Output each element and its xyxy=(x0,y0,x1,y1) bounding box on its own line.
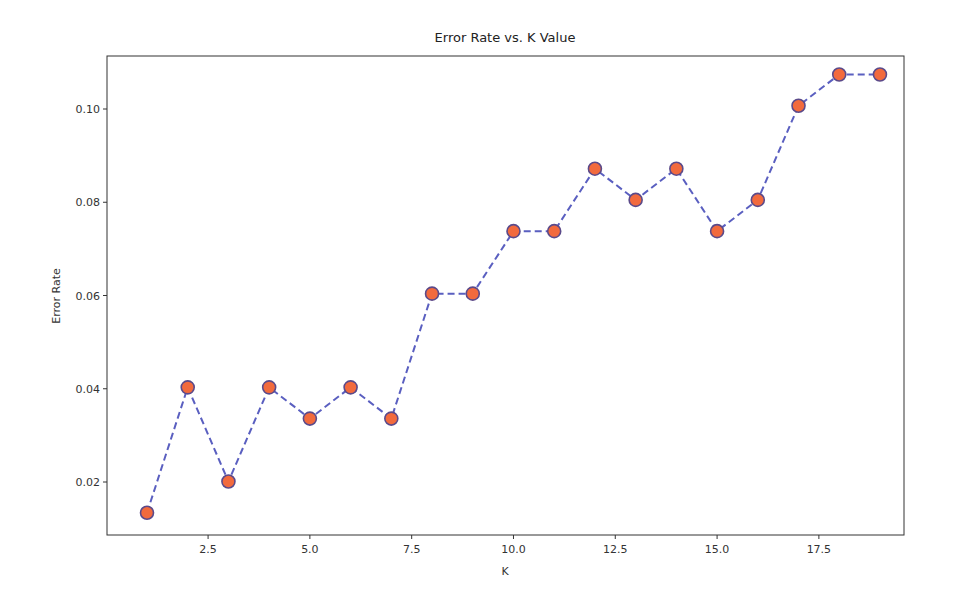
data-point-marker xyxy=(751,193,764,206)
x-axis-ticks: 2.55.07.510.012.515.017.5 xyxy=(199,535,831,556)
x-tick-label: 12.5 xyxy=(603,543,628,556)
data-point-marker xyxy=(344,381,357,394)
x-axis-label: K xyxy=(501,565,509,578)
x-tick-label: 7.5 xyxy=(403,543,421,556)
data-point-marker xyxy=(303,412,316,425)
data-point-marker xyxy=(466,287,479,300)
data-point-marker xyxy=(711,225,724,238)
data-point-marker xyxy=(507,225,520,238)
data-point-marker xyxy=(792,99,805,112)
data-point-marker xyxy=(426,287,439,300)
data-point-marker xyxy=(263,381,276,394)
y-tick-label: 0.06 xyxy=(76,290,101,303)
data-point-marker xyxy=(670,162,683,175)
x-tick-label: 10.0 xyxy=(501,543,526,556)
y-tick-label: 0.02 xyxy=(76,476,101,489)
data-point-marker xyxy=(548,225,561,238)
data-point-marker xyxy=(385,412,398,425)
error-rate-series xyxy=(141,68,887,519)
y-tick-label: 0.10 xyxy=(76,103,101,116)
data-point-marker xyxy=(588,162,601,175)
data-point-marker xyxy=(181,381,194,394)
y-axis-ticks: 0.020.040.060.080.10 xyxy=(76,103,108,489)
y-axis-label: Error Rate xyxy=(50,268,63,324)
plot-frame xyxy=(107,56,904,535)
chart-title: Error Rate vs. K Value xyxy=(435,30,576,45)
data-point-marker xyxy=(629,193,642,206)
x-tick-label: 15.0 xyxy=(705,543,730,556)
x-tick-label: 17.5 xyxy=(807,543,832,556)
x-tick-label: 2.5 xyxy=(199,543,217,556)
data-point-marker xyxy=(833,68,846,81)
x-tick-label: 5.0 xyxy=(301,543,319,556)
y-tick-label: 0.08 xyxy=(76,196,101,209)
data-point-marker xyxy=(222,475,235,488)
series-line xyxy=(147,74,880,512)
data-point-marker xyxy=(141,506,154,519)
error-rate-chart: Error Rate vs. K Value 2.55.07.510.012.5… xyxy=(0,0,953,596)
y-tick-label: 0.04 xyxy=(76,383,101,396)
data-point-marker xyxy=(873,68,886,81)
